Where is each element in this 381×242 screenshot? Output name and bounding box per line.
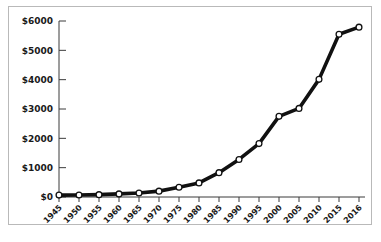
data-point-marker[interactable]	[156, 188, 162, 194]
y-axis-tick-label: $4000	[22, 75, 53, 85]
data-point-marker[interactable]	[216, 170, 222, 176]
y-axis-tick-label: $6000	[22, 16, 53, 26]
x-axis-tick-label: 1985	[202, 203, 224, 225]
chart-frame: $0$1000$2000$3000$4000$5000$600019451950…	[8, 6, 372, 225]
data-point-marker[interactable]	[336, 31, 342, 37]
data-point-marker[interactable]	[276, 113, 282, 119]
data-point-marker[interactable]	[236, 157, 242, 163]
data-point-marker[interactable]	[196, 180, 202, 186]
x-axis-tick-label: 2010	[302, 203, 324, 225]
x-axis-tick-label: 2015	[322, 203, 344, 225]
data-point-marker[interactable]	[296, 106, 302, 112]
x-axis-tick-label: 2005	[282, 203, 304, 225]
figure: $0$1000$2000$3000$4000$5000$600019451950…	[0, 0, 381, 242]
data-point-marker[interactable]	[96, 192, 102, 198]
data-point-marker[interactable]	[136, 190, 142, 196]
x-axis-tick-label: 2000	[262, 203, 284, 225]
x-axis-tick-label: 1990	[222, 203, 244, 225]
data-point-marker[interactable]	[116, 191, 122, 197]
data-point-marker[interactable]	[176, 184, 182, 190]
y-axis-tick-label: $3000	[22, 104, 53, 114]
x-axis-tick-label: 1970	[142, 203, 164, 225]
line-chart: $0$1000$2000$3000$4000$5000$600019451950…	[9, 7, 373, 226]
data-point-marker[interactable]	[76, 192, 82, 198]
series-line	[59, 27, 359, 195]
data-point-marker[interactable]	[56, 192, 62, 198]
x-axis-tick-label: 2016	[342, 203, 364, 225]
x-axis-tick-label: 1945	[42, 203, 64, 225]
y-axis-tick-label: $1000	[22, 163, 53, 173]
x-axis-tick-label: 1975	[162, 203, 184, 225]
x-axis-tick-label: 1950	[62, 203, 84, 225]
y-axis-tick-label: $0	[40, 192, 53, 202]
x-axis-tick-label: 1955	[82, 203, 104, 225]
x-axis-tick-label: 1960	[102, 203, 124, 225]
x-axis-tick-label: 1965	[122, 203, 144, 225]
data-point-marker[interactable]	[256, 141, 262, 147]
x-axis-tick-label: 1980	[182, 203, 204, 225]
data-point-marker[interactable]	[316, 76, 322, 82]
x-axis-tick-label: 1995	[242, 203, 264, 225]
data-point-marker[interactable]	[356, 24, 362, 30]
y-axis-tick-label: $2000	[22, 134, 53, 144]
y-axis-tick-label: $5000	[22, 46, 53, 56]
